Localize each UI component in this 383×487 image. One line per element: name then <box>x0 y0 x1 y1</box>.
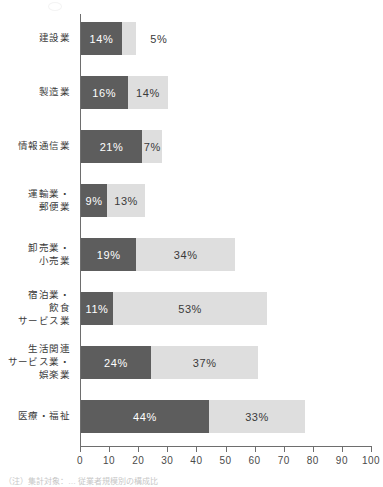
bar-value-label: 33% <box>245 411 269 423</box>
x-axis-tick-label: 20 <box>132 455 144 466</box>
x-axis-tick-label: 30 <box>161 455 173 466</box>
bar-row: 44%33% <box>81 400 305 433</box>
bar-value-label: 24% <box>104 357 128 369</box>
category-label: 製造業 <box>39 85 70 98</box>
category-label: 運輸業・ 郵便業 <box>28 187 70 213</box>
x-axis-tick-label: 70 <box>278 455 290 466</box>
plot-area: 0102030405060708090100 14%5%16%14%21%7%9… <box>80 14 371 446</box>
x-axis-tick-label: 40 <box>190 455 202 466</box>
bar-segment-light: 53% <box>113 292 267 325</box>
bar-segment-dark: 9% <box>81 184 107 217</box>
bar-row: 14%5% <box>81 22 136 55</box>
bar-value-label: 14% <box>136 87 160 99</box>
bar-value-label: 14% <box>89 33 113 45</box>
x-axis-tick-label: 80 <box>307 455 319 466</box>
x-axis-tick-label: 90 <box>336 455 348 466</box>
category-label: 生活関連 サービス業・ 娯楽業 <box>8 342 70 381</box>
bar-segment-dark: 16% <box>81 76 128 109</box>
bar-segment-light: 7% <box>142 130 162 163</box>
x-axis-tick <box>226 446 227 452</box>
bar-row: 9%13% <box>81 184 145 217</box>
bar-segment-light: 13% <box>107 184 145 217</box>
category-label: 建設業 <box>39 31 70 44</box>
bar-row: 11%53% <box>81 292 267 325</box>
bar-segment-light: 34% <box>136 238 235 271</box>
x-axis-tick <box>138 446 139 452</box>
chart-caption: （注）集計対象：… 従業者規模別の構成比 <box>4 477 234 486</box>
bar-value-label: 44% <box>133 411 157 423</box>
bar-value-label: 34% <box>174 249 198 261</box>
bar-value-label: 19% <box>97 249 121 261</box>
x-axis-tick-label: 50 <box>219 455 231 466</box>
category-label: 宿泊業・ 飲食 サービス業 <box>18 288 70 327</box>
x-axis-tick-label: 0 <box>77 455 83 466</box>
bar-segment-dark: 14% <box>81 22 122 55</box>
x-axis-tick <box>371 446 372 452</box>
bar-segment-light: 37% <box>151 346 259 379</box>
bar-segment-dark: 19% <box>81 238 136 271</box>
x-axis-tick <box>109 446 110 452</box>
x-axis-tick-label: 100 <box>362 455 380 466</box>
bar-segment-dark: 24% <box>81 346 151 379</box>
bar-value-label: 9% <box>86 195 103 207</box>
category-label: 卸売業・ 小売業 <box>28 241 70 267</box>
x-axis-tick <box>284 446 285 452</box>
bar-segment-light <box>122 22 137 55</box>
bar-value-label: 5% <box>150 22 167 55</box>
bar-segment-dark: 21% <box>81 130 142 163</box>
x-axis-tick <box>255 446 256 452</box>
bar-value-label: 37% <box>193 357 217 369</box>
stacked-bar-chart: 0102030405060708090100 14%5%16%14%21%7%9… <box>0 0 383 487</box>
bar-segment-light: 14% <box>128 76 169 109</box>
bar-value-label: 16% <box>92 87 116 99</box>
category-label: 情報通信業 <box>18 139 70 152</box>
x-axis-tick <box>196 446 197 452</box>
bar-segment-light: 33% <box>209 400 305 433</box>
x-axis-tick <box>167 446 168 452</box>
x-axis-tick-label: 60 <box>249 455 261 466</box>
bar-value-label: 13% <box>114 195 138 207</box>
bar-value-label: 53% <box>178 303 202 315</box>
bar-value-label: 7% <box>144 141 161 153</box>
x-axis-tick <box>342 446 343 452</box>
scan-artifact-icon <box>48 2 62 11</box>
category-label: 医療・福祉 <box>18 409 70 422</box>
x-axis-tick-label: 10 <box>103 455 115 466</box>
bar-value-label: 11% <box>86 303 109 315</box>
bar-segment-dark: 11% <box>81 292 113 325</box>
x-axis-tick <box>80 446 81 452</box>
bar-value-label: 21% <box>100 141 124 153</box>
bar-row: 24%37% <box>81 346 259 379</box>
bar-row: 21%7% <box>81 130 162 163</box>
x-axis-tick <box>313 446 314 452</box>
bar-row: 16%14% <box>81 76 168 109</box>
bar-row: 19%34% <box>81 238 235 271</box>
bar-segment-dark: 44% <box>81 400 209 433</box>
